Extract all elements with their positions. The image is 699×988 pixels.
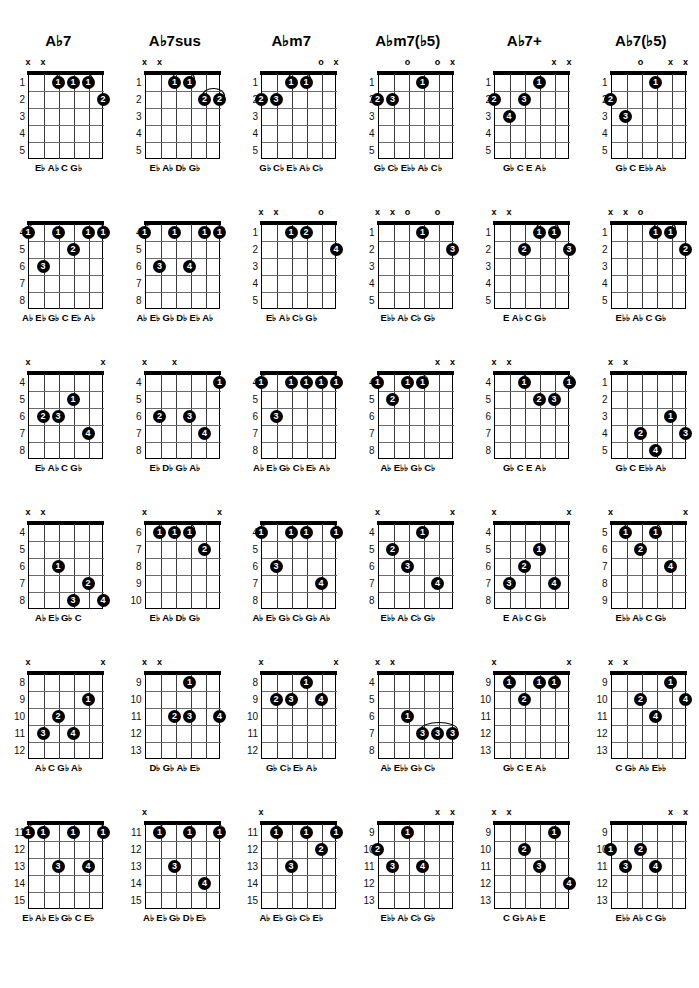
muted-string-marker: x [256,808,267,817]
finger-dot: 2 [634,843,647,856]
chord-cell[interactable]: 12345xx1123EA♭CG♭ [466,180,583,330]
chord-cell[interactable]: A♭m7(♭5)12345oox231G♭C♭E♭♭A♭C♭ [350,30,467,180]
string-line [44,524,45,609]
chord-title-spacer [466,330,583,352]
fret-number: 6 [468,412,491,422]
chord-cell[interactable]: 45678xx1123G♭CEA♭ [466,330,583,480]
chord-note-names: E♭A♭CG♭ [0,462,117,474]
chord-cell[interactable]: 45678xx1234A♭E♭G♭C [0,480,117,630]
chord-diagram: 12345oox231G♭C♭E♭♭A♭C♭ [350,52,467,172]
chord-cell[interactable]: 1112131415x11123A♭E♭G♭C♭E♭ [233,780,350,930]
fret-number: 7 [119,545,142,555]
fret-line [612,125,687,126]
fret-number: 9 [119,579,142,589]
chord-cell[interactable]: A♭7+12345xx2431G♭CEA♭ [466,30,583,180]
fret-number: 12 [235,746,258,756]
chord-cell[interactable]: A♭m712345ox2311G♭C♭E♭A♭C♭ [233,30,350,180]
muted-string-marker: x [139,658,150,667]
fret-line [495,442,570,443]
fret-line [29,142,104,143]
chord-cell[interactable]: 910111213xx1244CG♭A♭E♭♭ [583,630,699,780]
chord-cell[interactable]: 89101112xx1234G♭C♭E♭A♭ [233,630,350,780]
chord-cell[interactable]: 45678xx1112A♭E♭♭G♭C♭ [350,330,467,480]
fret-line [146,691,221,692]
fret-line [29,575,104,576]
chord-cell[interactable]: 1112131415x11134A♭E♭G♭D♭E♭ [117,780,234,930]
finger-dot: 2 [533,393,546,406]
fret-number: 10 [585,695,608,705]
fret-line [262,258,337,259]
fret-number: 5 [352,395,375,405]
chord-cell[interactable]: 45678xx1234EA♭CG♭ [466,480,583,630]
chord-title-spacer [583,780,699,802]
chord-cell[interactable]: 45678xx1234E♭♭A♭C♭G♭ [350,480,467,630]
finger-dot: 1 [52,560,65,573]
string-line [510,224,511,309]
chord-note-names: E♭A♭C♭G♭ [233,312,350,324]
chord-cell[interactable]: 12345xxoo13E♭♭A♭C♭G♭ [350,180,467,330]
finger-dot: 2 [300,226,313,239]
chord-cell[interactable]: 45678111134A♭E♭G♭C♭G♭A♭ [233,480,350,630]
chord-cell[interactable]: 89101112xx1234A♭CG♭A♭ [0,630,117,780]
fret-number: 3 [119,112,142,122]
chord-title-spacer [0,480,117,502]
fret-line [612,875,687,876]
muted-string-marker: x [447,358,458,367]
finger-dot: 1 [270,826,283,839]
chord-cell[interactable]: A♭7(♭5)12345oxx231G♭CE♭♭A♭ [583,30,699,180]
fret-number: 13 [468,746,491,756]
string-line [642,524,643,609]
finger-dot: 1 [285,76,298,89]
muted-string-marker: x [372,508,383,517]
fret-line [262,742,337,743]
chord-cell[interactable]: 12345xxo124E♭A♭C♭G♭ [233,180,350,330]
fret-number: 3 [235,262,258,272]
chord-diagram: 910111213xx1234E♭♭A♭C♭G♭ [350,802,467,922]
chord-cell[interactable]: 12345xx1234G♭CE♭♭A♭ [583,330,699,480]
chord-cell[interactable]: 910111213xx1234E♭♭A♭C♭G♭ [350,780,467,930]
chord-cell[interactable]: 12345xxo112E♭♭A♭CG♭ [583,180,699,330]
chord-cell[interactable]: 45678111113A♭E♭G♭C♭E♭A♭ [233,330,350,480]
chord-cell[interactable]: 910111213xx1234E♭♭A♭CG♭ [583,780,699,930]
finger-dot: 2 [634,543,647,556]
chord-cell[interactable]: 910111213xx1234D♭G♭A♭E♭ [117,630,234,780]
chord-cell[interactable]: 45678xx1234E♭D♭G♭A♭ [117,330,234,480]
chord-cell[interactable]: 1112131415111134E♭A♭E♭G♭CE♭ [0,780,117,930]
fret-line [612,408,687,409]
finger-dot: 1 [300,76,313,89]
chord-cell[interactable]: 45678xx1333A♭E♭♭G♭C♭ [350,630,467,780]
chord-cell[interactable]: 910111213xx1112G♭CEA♭ [466,630,583,780]
fret-number: 3 [235,112,258,122]
finger-dot: 1 [168,526,181,539]
fret-line [262,858,337,859]
fret-line [379,258,454,259]
fret-line [495,241,570,242]
chord-cell[interactable]: 45678111134A♭E♭G♭D♭E♭A♭ [117,180,234,330]
chord-cell[interactable]: 678910xx1112E♭A♭D♭G♭ [117,480,234,630]
fret-number: 3 [468,112,491,122]
finger-dot: 3 [52,860,65,873]
fret-line [612,892,687,893]
string-line [206,674,207,759]
muted-string-marker: x [432,808,443,817]
chord-cell[interactable]: A♭712345xx1112E♭A♭CG♭ [0,30,117,180]
chord-cell[interactable]: 56789xx1124E♭♭A♭CG♭ [583,480,699,630]
string-line [439,674,440,759]
fret-number: 9 [235,695,258,705]
fret-line [612,708,687,709]
muted-string-marker: x [564,508,575,517]
chord-cell[interactable]: 910111213xx1234CG♭A♭E [466,780,583,930]
finger-dot: 3 [37,260,50,273]
chord-title-spacer [117,330,234,352]
finger-dot: 1 [213,226,226,239]
chord-note-names: CG♭A♭E♭♭ [583,762,699,774]
chord-cell[interactable]: 45678111123A♭E♭G♭CE♭A♭ [0,180,117,330]
fret-number: 6 [352,562,375,572]
finger-dot: 1 [183,526,196,539]
muted-string-marker: x [620,658,631,667]
string-line [672,74,673,159]
muted-string-marker: x [504,808,515,817]
chord-cell[interactable]: A♭7sus12345xx1122E♭A♭D♭G♭ [117,30,234,180]
fret-number: 5 [235,545,258,555]
chord-cell[interactable]: 45678xx1234E♭A♭CG♭ [0,330,117,480]
